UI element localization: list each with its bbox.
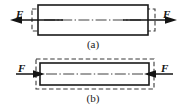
force-label-left-a: F: [16, 9, 23, 20]
panel-caption-b: (b): [0, 92, 186, 104]
panel-caption-a: (a): [0, 38, 186, 50]
force-label-right-b: F: [161, 63, 168, 74]
panel-compression: F F (b): [0, 54, 186, 108]
force-label-left-b: F: [18, 63, 25, 74]
panel-tension: F F (a): [0, 0, 186, 54]
force-label-right-a: F: [163, 9, 170, 20]
figure-root: F F (a) F F (b): [0, 0, 186, 108]
